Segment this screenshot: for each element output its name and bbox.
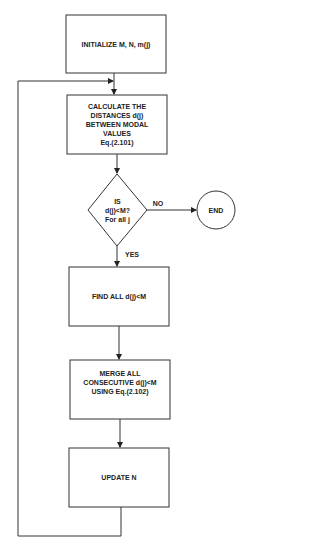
init-label: INITIALIZE M, N, m(j) xyxy=(66,15,166,73)
find-label: FIND ALL d(j)<M xyxy=(69,267,169,326)
merge-label: MERGE ALL CONSECUTIVE d(j)<M USING Eq.(2… xyxy=(70,360,170,405)
no-edge-label: NO xyxy=(148,198,168,208)
decision-label: IS d(j)<M? For all j xyxy=(88,186,147,234)
calc-label: CALCULATE THE DISTANCES d(j) BETWEEN MOD… xyxy=(67,95,167,154)
update-label: UPDATE N xyxy=(69,448,169,507)
yes-edge-label: YES xyxy=(121,249,143,259)
end-label: END xyxy=(197,200,235,220)
